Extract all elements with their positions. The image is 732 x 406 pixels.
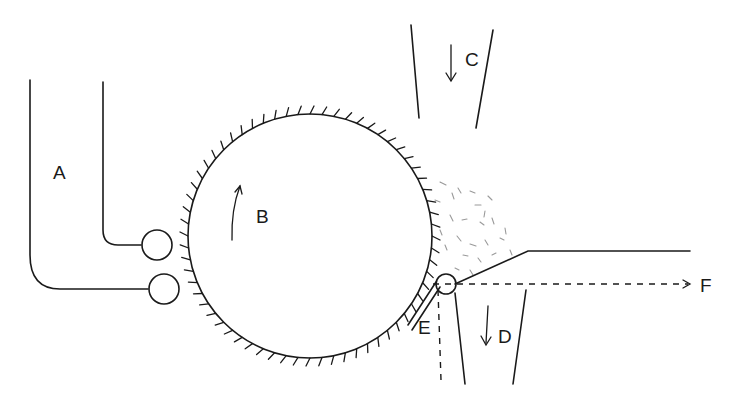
fiber-cloud: [435, 182, 512, 275]
down-arrow-d-icon: [481, 306, 491, 345]
label-a: A: [53, 162, 66, 183]
feed-roller-top: [142, 230, 172, 260]
output-flow-arrow: [433, 280, 690, 288]
diagram-canvas: A B C D E F: [0, 0, 732, 406]
label-b: B: [256, 206, 269, 227]
feed-roller-bottom: [149, 274, 179, 304]
toothed-cylinder: [180, 106, 440, 366]
feed-chute: [30, 80, 148, 289]
delivery-plate: [455, 251, 690, 284]
label-d: D: [498, 326, 512, 347]
dashed-guide-line: [438, 290, 441, 380]
label-e: E: [418, 317, 431, 338]
inlet-duct: [411, 25, 493, 128]
label-c: C: [465, 49, 479, 70]
rotation-arrow-icon: [232, 186, 242, 240]
label-f: F: [700, 275, 712, 296]
down-arrow-c-icon: [446, 45, 456, 81]
